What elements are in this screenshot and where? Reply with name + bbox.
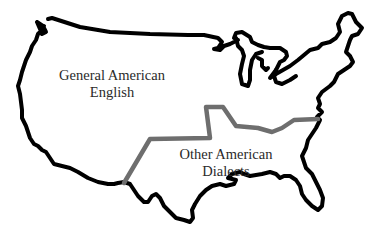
other-dialects-line1: Other American <box>172 146 280 163</box>
other-dialects-line2: Dialects <box>172 163 280 180</box>
region-label-other-dialects: Other American Dialects <box>172 146 280 180</box>
general-american-line2: English <box>56 84 168 101</box>
region-label-general-american: General American English <box>56 67 168 101</box>
us-outline-map <box>0 0 376 244</box>
great-lakes-outline <box>236 38 296 86</box>
general-american-line1: General American <box>56 67 168 84</box>
